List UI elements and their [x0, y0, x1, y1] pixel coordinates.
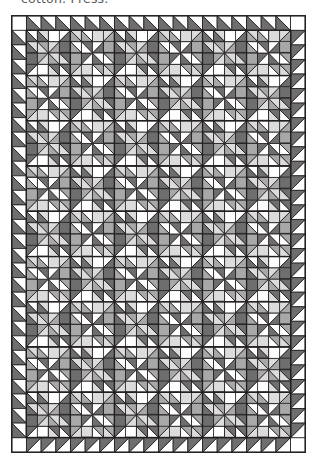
pieced-star-block: [26, 211, 70, 256]
pieced-star-block: [203, 347, 247, 392]
border-corner-square: [291, 16, 306, 31]
pieced-star-block: [159, 166, 203, 211]
pieced-star-block: [114, 257, 158, 302]
pieced-star-block: [26, 166, 70, 211]
pieced-star-block: [247, 392, 291, 437]
pieced-star-block: [70, 211, 114, 256]
quilt-geometry: [12, 16, 305, 452]
pieced-star-block: [70, 76, 114, 121]
pieced-star-block: [159, 76, 203, 121]
pieced-star-block: [114, 302, 158, 347]
pieced-star-block: [247, 76, 291, 121]
pieced-star-block: [70, 302, 114, 347]
pieced-star-block: [203, 76, 247, 121]
pieced-star-block: [247, 211, 291, 256]
pieced-star-block: [159, 121, 203, 166]
pieced-star-block: [247, 30, 291, 75]
pieced-star-block: [203, 392, 247, 437]
pieced-star-block: [70, 392, 114, 437]
pieced-star-block: [114, 76, 158, 121]
pieced-star-block: [26, 302, 70, 347]
border-corner-square: [12, 16, 27, 31]
block-grid: [26, 30, 290, 437]
quilt-layout-diagram: [11, 15, 306, 453]
pieced-star-block: [203, 257, 247, 302]
pieced-star-block: [26, 257, 70, 302]
pieced-star-block: [159, 30, 203, 75]
quilt-svg: [11, 15, 306, 453]
pieced-star-block: [26, 121, 70, 166]
pieced-star-block: [247, 257, 291, 302]
pieced-star-block: [114, 347, 158, 392]
pieced-star-block: [70, 121, 114, 166]
pieced-star-block: [203, 211, 247, 256]
pieced-star-block: [70, 30, 114, 75]
pieced-star-block: [203, 166, 247, 211]
pieced-star-block: [70, 166, 114, 211]
pieced-star-block: [159, 302, 203, 347]
pieced-star-block: [114, 392, 158, 437]
pieced-star-block: [203, 302, 247, 347]
caption-strip: cotton. Press.: [0, 0, 317, 14]
pieced-star-block: [26, 392, 70, 437]
pieced-star-block: [26, 30, 70, 75]
pieced-star-block: [26, 347, 70, 392]
pieced-star-block: [247, 121, 291, 166]
pieced-star-block: [247, 347, 291, 392]
pieced-star-block: [26, 76, 70, 121]
pieced-star-block: [159, 257, 203, 302]
pieced-star-block: [247, 166, 291, 211]
pieced-star-block: [247, 302, 291, 347]
pieced-star-block: [159, 211, 203, 256]
border-corner-square: [291, 438, 306, 453]
caption-text: cotton. Press.: [21, 0, 109, 6]
pieced-star-block: [159, 392, 203, 437]
pieced-star-block: [159, 347, 203, 392]
pieced-star-block: [114, 30, 158, 75]
pieced-star-block: [70, 257, 114, 302]
page-root: cotton. Press.: [0, 0, 317, 461]
pieced-star-block: [70, 347, 114, 392]
pieced-star-block: [114, 121, 158, 166]
pieced-star-block: [114, 166, 158, 211]
pieced-star-block: [114, 211, 158, 256]
border-corner-square: [12, 438, 27, 453]
pieced-star-block: [203, 121, 247, 166]
pieced-star-block: [203, 30, 247, 75]
